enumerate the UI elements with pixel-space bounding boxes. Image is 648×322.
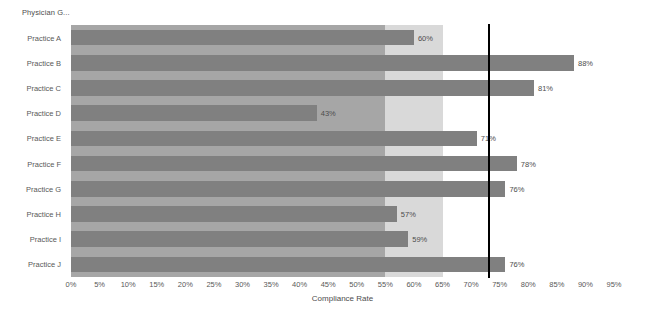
bar[interactable] [71,30,414,46]
bar-row: 78% [71,156,614,172]
y-tick-label: Practice B [27,58,61,67]
x-tick-label: 20% [178,280,193,289]
y-tick-label: Practice F [27,159,61,168]
bar-row: 43% [71,105,614,121]
chart-title: Physician G... [22,8,70,17]
x-tick-label: 5% [94,280,105,289]
y-tick-label: Practice J [28,260,61,269]
x-axis-title: Compliance Rate [71,294,614,303]
bar-value-label: 60% [414,33,433,42]
x-tick-label: 25% [206,280,221,289]
bar-value-label: 81% [534,83,553,92]
x-tick-label: 40% [292,280,307,289]
x-tick-label: 85% [549,280,564,289]
x-tick-label: 80% [521,280,536,289]
plot-area: 60%88%81%43%71%78%76%57%59%76% [71,25,614,277]
x-tick-label: 30% [235,280,250,289]
y-tick-label: Practice E [27,134,61,143]
x-tick-label: 65% [435,280,450,289]
bar-row: 76% [71,257,614,273]
x-tick-label: 45% [321,280,336,289]
bar-value-label: 59% [408,235,427,244]
bar[interactable] [71,156,517,172]
y-tick-label: Practice G [26,184,61,193]
bar[interactable] [71,257,505,273]
bar-value-label: 43% [317,109,336,118]
bar-value-label: 88% [574,58,593,67]
x-tick-label: 95% [606,280,621,289]
bar-value-label: 78% [517,159,536,168]
y-axis: Practice APractice BPractice CPractice D… [0,25,66,277]
bar[interactable] [71,131,477,147]
bar-row: 76% [71,181,614,197]
bar-value-label: 76% [505,184,524,193]
x-tick-label: 75% [492,280,507,289]
bar-row: 81% [71,80,614,96]
x-tick-label: 35% [264,280,279,289]
bar-row: 88% [71,55,614,71]
x-tick-label: 55% [378,280,393,289]
y-tick-label: Practice I [30,235,61,244]
bar[interactable] [71,105,317,121]
bar-value-label: 57% [397,209,416,218]
bar-row: 57% [71,206,614,222]
x-tick-label: 50% [349,280,364,289]
bar[interactable] [71,55,574,71]
x-tick-label: 10% [121,280,136,289]
bar-value-label: 76% [505,260,524,269]
x-tick-label: 70% [464,280,479,289]
bar-row: 71% [71,131,614,147]
reference-line [488,24,490,278]
bar[interactable] [71,80,534,96]
x-tick-label: 90% [578,280,593,289]
y-tick-label: Practice C [26,84,61,93]
y-tick-label: Practice H [26,210,61,219]
y-tick-label: Practice D [26,109,61,118]
bar[interactable] [71,181,505,197]
bar[interactable] [71,231,408,247]
bar-row: 59% [71,231,614,247]
bar-rows: 60%88%81%43%71%78%76%57%59%76% [71,25,614,277]
x-tick-label: 60% [406,280,421,289]
x-tick-label: 15% [149,280,164,289]
x-axis: 0%5%10%15%20%25%30%35%40%45%50%55%60%65%… [71,277,614,295]
x-tick-label: 0% [66,280,77,289]
compliance-rate-chart: Physician G... Practice APractice BPract… [0,0,648,322]
y-tick-label: Practice A [27,33,61,42]
bar[interactable] [71,206,397,222]
bar-value-label: 71% [477,134,496,143]
bar-row: 60% [71,30,614,46]
